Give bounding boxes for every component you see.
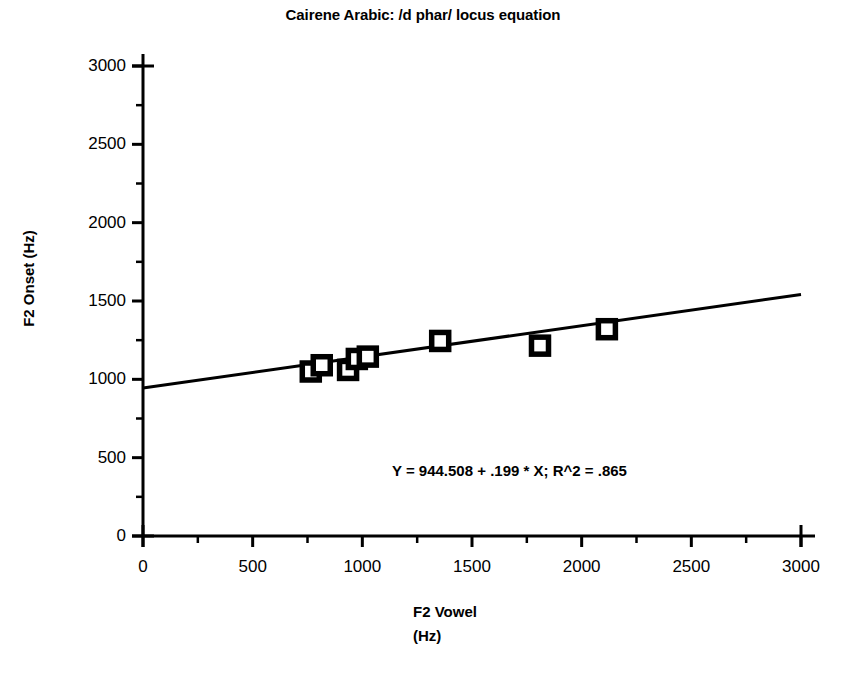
data-point [598,321,615,338]
data-point-marker-7 [598,321,615,338]
y-tick-label: 1000 [60,370,126,387]
x-tick-label: 2500 [651,558,731,575]
locus-equation-figure: Cairene Arabic: /d phar/ locus equation … [0,0,846,673]
data-point [531,337,548,354]
y-tick-label: 2500 [60,135,126,152]
data-point [313,357,330,374]
axis-ticks [132,54,815,547]
data-point-marker-6 [531,337,548,354]
x-tick-label: 1000 [322,558,402,575]
y-tick-label: 2000 [60,214,126,231]
x-tick-label: 500 [213,558,293,575]
axes [143,66,801,536]
data-point-marker-4 [359,348,376,365]
data-point [359,348,376,365]
y-tick-label: 0 [60,527,126,544]
y-tick-label: 3000 [60,57,126,74]
regression-line-segment [143,294,801,388]
x-tick-label: 3000 [761,558,841,575]
x-tick-label: 1500 [432,558,512,575]
y-tick-label: 1500 [60,292,126,309]
y-tick-label: 500 [60,449,126,466]
data-point-marker-5 [432,332,449,349]
data-point [432,332,449,349]
regression-line [143,294,801,388]
data-point-marker-1 [313,357,330,374]
data-points [302,321,615,380]
x-tick-label: 2000 [542,558,622,575]
x-tick-label: 0 [103,558,183,575]
